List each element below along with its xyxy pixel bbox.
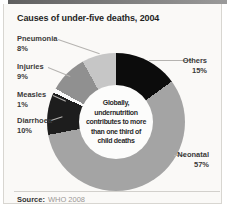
figure-frame: Causes of under-five deaths, 2004 Global… (3, 4, 222, 204)
slice-label-measles: Measles 1% (17, 90, 46, 110)
slice-label-name: Others (183, 56, 207, 65)
slice-label-pct: 8% (17, 44, 57, 54)
center-note-line: child deaths (79, 136, 153, 146)
source-label: Source: (17, 195, 45, 204)
slice-label-name: Neonatal (177, 150, 209, 159)
slice-label-name: Injuries (17, 62, 44, 71)
slice-label-pct: 15% (183, 66, 207, 76)
slice-label-pneumonia: Pneumonia 8% (17, 34, 57, 54)
slice-label-pct: 10% (17, 126, 52, 136)
slice-label-diarrhoea: Diarrhoea 10% (17, 116, 52, 136)
center-note-line: contributes to more (79, 117, 153, 127)
source-value: WHO 2008 (48, 195, 85, 204)
center-note: Globally, undernutrition contributes to … (79, 98, 153, 146)
slice-label-neonatal: Neonatal 57% (177, 150, 209, 170)
slice-label-name: Measles (17, 90, 46, 99)
leader-line-pneumonia (58, 39, 100, 54)
slice-label-name: Pneumonia (17, 34, 57, 43)
source-line: Source:WHO 2008 (17, 195, 85, 204)
donut-center: Globally, undernutrition contributes to … (79, 85, 153, 159)
center-note-line: than one third of (79, 127, 153, 137)
center-note-line: undernutrition (79, 108, 153, 118)
chart-title: Causes of under-five deaths, 2004 (17, 13, 159, 23)
slice-label-name: Diarrhoea (17, 116, 52, 125)
center-note-line: Globally, (79, 98, 153, 108)
slice-label-pct: 9% (17, 72, 44, 82)
donut-chart: Globally, undernutrition contributes to … (47, 53, 185, 191)
source-divider (14, 191, 220, 192)
slice-label-injuries: Injuries 9% (17, 62, 44, 82)
slice-label-pct: 1% (17, 100, 46, 110)
slice-label-pct: 57% (177, 160, 209, 170)
slice-label-others: Others 15% (183, 56, 207, 76)
